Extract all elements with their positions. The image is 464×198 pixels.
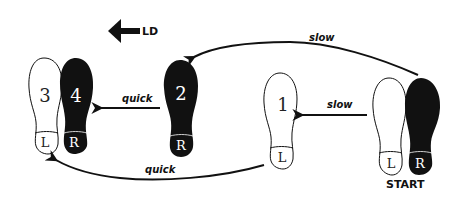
arrow-label-quick-bottom: quick [145, 165, 175, 175]
side-letter-step-4: R [66, 136, 82, 149]
arrow-label-slow-top: slow [309, 33, 335, 43]
step-number-1: 1 [273, 96, 293, 114]
line-of-dance-arrow-icon [108, 19, 140, 43]
side-letter-step-2: R [173, 139, 189, 152]
side-letter-start-left: L [383, 157, 399, 170]
side-letter-start-right: R [412, 157, 428, 170]
arrow-label-quick-middle: quick [122, 94, 152, 104]
arrow-start-to-step-2 [194, 42, 418, 75]
step-number-3: 3 [35, 87, 55, 105]
step-number-2: 2 [171, 85, 191, 103]
start-label: START [386, 179, 425, 190]
line-of-dance-label: LD [142, 26, 158, 37]
dance-step-diagram: LD slow slow quick quick 1 2 3 4 L R R L… [0, 0, 464, 198]
side-letter-step-1: L [274, 151, 290, 164]
step-number-4: 4 [66, 87, 86, 105]
side-letter-step-3: L [37, 136, 53, 149]
arrow-label-slow-middle: slow [327, 100, 353, 110]
